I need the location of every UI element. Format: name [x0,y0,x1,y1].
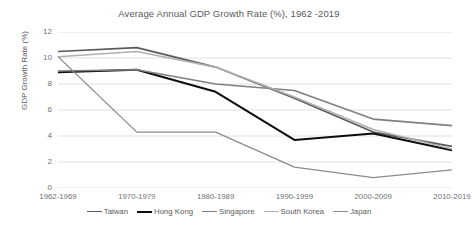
x-tick-label: 1990-1999 [257,192,331,201]
legend-swatch-icon [264,211,279,212]
y-tick-label: 6 [28,105,52,114]
legend-item-hong-kong[interactable]: Hong Kong [137,208,193,216]
y-tick-label: 12 [28,27,52,36]
series-line-south-korea [58,52,452,150]
y-tick-label: 10 [28,53,52,62]
x-tick-label: 1970-1979 [100,192,174,201]
legend-swatch-icon [87,211,102,212]
legend-label: Hong Kong [154,208,193,216]
legend-item-south-korea[interactable]: South Korea [264,208,324,216]
series-line-japan [58,57,452,178]
y-tick-label: 0 [28,183,52,192]
chart-legend: TaiwanHong KongSingaporeSouth KoreaJapan [0,208,458,216]
y-tick-label: 4 [28,131,52,140]
x-tick-label: 2000-2009 [336,192,410,201]
plot-area [58,32,452,188]
legend-swatch-icon [333,211,348,212]
x-tick-label: 1980-1989 [179,192,253,201]
series-line-singapore [58,70,452,126]
x-tick-label: 2010-2019 [415,192,475,201]
y-tick-label: 2 [28,157,52,166]
legend-swatch-icon [137,211,152,213]
chart-title: Average Annual GDP Growth Rate (%), 1962… [0,8,458,19]
legend-label: Taiwan [104,208,128,216]
legend-label: Japan [350,208,371,216]
series-line-taiwan [58,48,452,147]
legend-label: South Korea [281,208,324,216]
y-axis-title: GDP Growth Rate (%) [20,1,29,141]
series-lines [58,48,452,178]
legend-item-taiwan[interactable]: Taiwan [87,208,128,216]
x-tick-label: 1962-1969 [21,192,95,201]
legend-swatch-icon [202,211,217,212]
gridlines [58,32,452,188]
legend-item-japan[interactable]: Japan [333,208,371,216]
y-tick-label: 8 [28,79,52,88]
plot-svg [58,32,452,188]
legend-item-singapore[interactable]: Singapore [202,208,255,216]
legend-label: Singapore [219,208,255,216]
